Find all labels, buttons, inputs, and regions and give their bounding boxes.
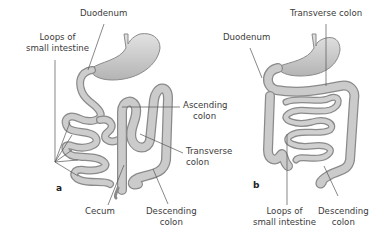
label-a-loops-small-intestine: Loops of small intestine [26, 32, 89, 53]
label-a-descending-colon: Descending colon [146, 206, 197, 227]
panel-b-illustration [268, 34, 354, 184]
panel-letter-a: a [56, 183, 62, 193]
label-a-transverse-colon: Transverse colon [186, 146, 232, 167]
panel-a-illustration [65, 34, 168, 198]
label-a-ascending-colon: Ascending colon [183, 100, 228, 121]
label-b-transverse-colon: Transverse colon [290, 8, 362, 19]
label-b-descending-colon: Descending colon [318, 206, 369, 227]
label-b-duodenum: Duodenum [223, 32, 270, 43]
label-a-duodenum: Duodenum [80, 8, 127, 19]
intestine-diagram: Duodenum Loops of small intestine Ascend… [0, 0, 387, 242]
label-b-loops-small-intestine: Loops of small intestine [253, 206, 316, 227]
label-a-cecum: Cecum [85, 206, 115, 217]
panel-letter-b: b [253, 180, 259, 190]
